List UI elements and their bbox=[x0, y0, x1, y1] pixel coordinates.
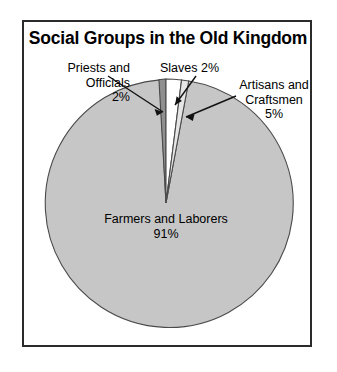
slice-label-slaves: Slaves 2% bbox=[160, 61, 250, 76]
slice-label-priests-and-officials: Priests and Officials 2% bbox=[26, 61, 130, 105]
slice-label-artisans-and-craftsmen: Artisans and Craftsmen 5% bbox=[232, 78, 316, 122]
pie-chart-figure: Social Groups in the Old Kingdom Priests… bbox=[0, 0, 337, 372]
slice-label-farmers-and-laborers: Farmers and Laborers 91% bbox=[76, 212, 256, 242]
pie-svg bbox=[0, 0, 337, 372]
